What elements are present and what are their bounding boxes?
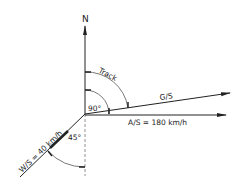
north-axis: N — [82, 14, 89, 114]
track-angle-arc: Track — [85, 65, 128, 108]
airspeed-label: A/S = 180 km/h — [128, 118, 187, 127]
wind-angle-label: 45° — [68, 133, 82, 142]
heading-angle-arc: 90° — [85, 90, 109, 114]
ground-speed-label: G/S — [159, 91, 173, 102]
wind-speed-vector: W/S = 40 km/h — [17, 114, 85, 177]
airspeed-vector: A/S = 180 km/h — [85, 115, 226, 127]
wind-triangle-diagram: N A/S = 180 km/h G/S W/S = 40 km/h Track… — [0, 0, 246, 189]
north-label: N — [82, 14, 89, 24]
track-label: Track — [96, 65, 119, 83]
heading-angle-label: 90° — [88, 104, 102, 113]
wind-speed-label: W/S = 40 km/h — [17, 128, 64, 174]
ground-speed-vector: G/S — [85, 91, 230, 114]
